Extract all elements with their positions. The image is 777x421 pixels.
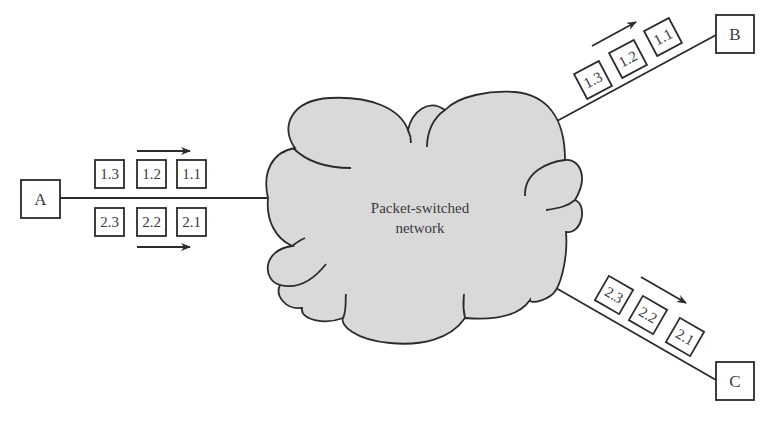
node-c-label: C — [729, 372, 740, 391]
packet-label: 1.3 — [100, 166, 119, 182]
packet-2-3: 2.3 — [95, 208, 124, 236]
packet-label: 2.1 — [182, 214, 201, 230]
link-a-packets: 1.3 1.2 1.1 2.3 2.2 2.1 — [95, 151, 206, 247]
node-b: B — [716, 15, 754, 53]
packet-label: 1.1 — [182, 166, 201, 182]
packet-switched-network-cloud: Packet-switched network — [266, 92, 582, 344]
cloud-shape — [266, 92, 582, 344]
packet-label: 2.2 — [142, 214, 161, 230]
packet-1-1: 1.1 — [177, 160, 206, 188]
packet-2-3: 2.3 — [595, 276, 633, 314]
packet-label: 1.2 — [142, 166, 161, 182]
packet-2-1: 2.1 — [666, 318, 704, 356]
node-c: C — [716, 362, 754, 400]
packet-switching-diagram: Packet-switched network A B C 1.3 1.2 1.… — [0, 0, 777, 421]
packet-2-1: 2.1 — [177, 208, 206, 236]
node-b-label: B — [729, 25, 740, 44]
packet-1-3: 1.3 — [574, 61, 612, 99]
packet-1-3: 1.3 — [95, 160, 124, 188]
node-a: A — [21, 180, 60, 218]
cloud-label-line2: network — [395, 220, 445, 236]
link-c-packets: 2.3 2.2 2.1 — [595, 276, 704, 356]
packet-1-2: 1.2 — [609, 40, 647, 78]
packet-2-2: 2.2 — [137, 208, 166, 236]
node-a-label: A — [34, 190, 47, 209]
link-b-packets: 1.3 1.2 1.1 — [574, 18, 682, 99]
packet-1-1: 1.1 — [644, 18, 682, 56]
packet-1-2: 1.2 — [137, 160, 166, 188]
cloud-label-line1: Packet-switched — [371, 200, 470, 216]
packet-label: 2.3 — [100, 214, 119, 230]
packet-2-2: 2.2 — [629, 296, 667, 334]
